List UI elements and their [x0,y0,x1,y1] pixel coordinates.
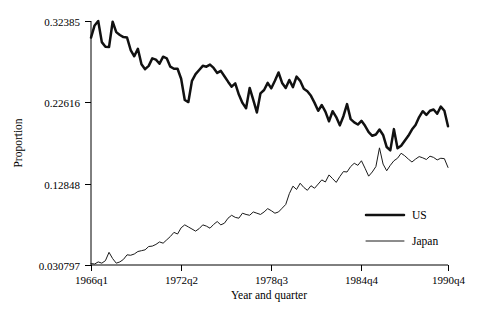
y-tick-label: 0.22616 [44,97,80,109]
x-tick-label: 1978q3 [255,274,289,286]
x-tick-label: 1972q2 [165,274,198,286]
x-tick-label: 1990q4 [432,274,466,286]
legend-label-japan: Japan [412,235,438,248]
x-axis-title: Year and quarter [231,289,307,302]
y-axis-title: Proportion [12,118,25,167]
y-tick-label: 0.32385 [44,16,80,28]
line-chart: 0.323850.226160.128480.030797 1966q11972… [0,0,484,316]
chart-container: 0.323850.226160.128480.030797 1966q11972… [0,0,484,316]
x-tick-label: 1984q4 [345,274,379,286]
legend-label-us: US [412,209,427,221]
x-tick-label: 1966q1 [75,274,108,286]
y-tick-label: 0.12848 [44,179,80,191]
y-tick-label: 0.030797 [39,260,81,272]
